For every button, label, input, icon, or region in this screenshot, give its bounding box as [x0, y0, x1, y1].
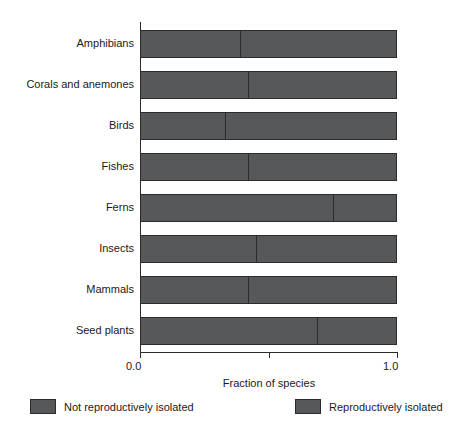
bar-segment-reproductively-isolated	[140, 112, 397, 140]
y-axis-tick-label: Ferns	[106, 201, 134, 213]
legend-item-not-reproductively-isolated: Not reproductively isolated	[30, 399, 194, 414]
bar-row	[140, 317, 397, 345]
legend-swatch-icon	[295, 399, 321, 414]
x-axis-tick-label: 1.0	[383, 360, 398, 373]
x-axis-tick-label: 0.0	[126, 360, 141, 373]
y-axis-tick-label: Amphibians	[77, 37, 134, 49]
bar-row	[140, 30, 397, 58]
y-axis-tick-label: Fishes	[102, 160, 134, 172]
legend-item-label: Reproductively isolated	[329, 401, 443, 413]
bar-segment-not-reproductively-isolated	[141, 318, 318, 344]
bar-segment-reproductively-isolated	[140, 235, 397, 263]
bar-segment-not-reproductively-isolated	[141, 154, 249, 180]
bar-segment-not-reproductively-isolated	[141, 31, 241, 57]
y-axis-tick-label: Insects	[99, 242, 134, 254]
bar-segment-not-reproductively-isolated	[141, 113, 226, 139]
bar-segment-reproductively-isolated	[140, 71, 397, 99]
bar-segment-not-reproductively-isolated	[141, 72, 249, 98]
y-axis-tick-label: Seed plants	[76, 324, 134, 336]
bar-segment-reproductively-isolated	[140, 276, 397, 304]
y-axis-tick-label: Birds	[109, 119, 134, 131]
x-axis-tick	[397, 352, 398, 358]
legend-item-label: Not reproductively isolated	[64, 401, 194, 413]
bar-row	[140, 71, 397, 99]
y-axis-line	[140, 22, 141, 352]
bar-row	[140, 112, 397, 140]
bar-segment-reproductively-isolated	[140, 317, 397, 345]
bar-row	[140, 235, 397, 263]
bar-row	[140, 194, 397, 222]
y-axis-tick-label: Mammals	[86, 283, 134, 295]
chart-figure: AmphibiansCorals and anemonesBirdsFishes…	[0, 0, 450, 432]
x-axis-title: Fraction of species	[140, 377, 398, 389]
bar-segment-not-reproductively-isolated	[141, 195, 334, 221]
legend-swatch-icon	[30, 399, 56, 414]
bar-segment-reproductively-isolated	[140, 153, 397, 181]
legend-item-reproductively-isolated: Reproductively isolated	[295, 399, 443, 414]
bar-segment-reproductively-isolated	[140, 194, 397, 222]
x-axis-tick	[140, 352, 141, 358]
x-axis-tick	[269, 352, 270, 358]
bar-segment-not-reproductively-isolated	[141, 236, 257, 262]
chart-legend: Not reproductively isolated Reproductive…	[0, 396, 450, 420]
bar-row	[140, 153, 397, 181]
bar-segment-not-reproductively-isolated	[141, 277, 249, 303]
bar-segment-reproductively-isolated	[140, 30, 397, 58]
bar-row	[140, 276, 397, 304]
y-axis-tick-label: Corals and anemones	[26, 78, 134, 90]
